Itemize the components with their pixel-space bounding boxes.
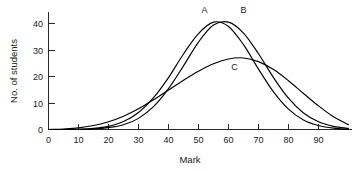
curve-c <box>49 58 349 130</box>
x-tick-label-60: 60 <box>223 135 233 145</box>
x-tick-label-70: 70 <box>253 135 263 145</box>
distribution-chart: 40 30 20 10 0 0 10 20 30 40 50 60 70 80 … <box>0 0 362 171</box>
y-axis-ticks <box>49 24 55 104</box>
curve-b <box>49 22 349 130</box>
x-tick-label-80: 80 <box>283 135 293 145</box>
curve-label-a: A <box>201 5 207 15</box>
x-tick-label-90: 90 <box>313 135 323 145</box>
x-tick-label-40: 40 <box>163 135 173 145</box>
y-tick-label-30: 30 <box>33 46 43 56</box>
curve-label-b: B <box>240 5 246 15</box>
y-axis-title: No. of students <box>8 39 19 103</box>
chart-container: 40 30 20 10 0 0 10 20 30 40 50 60 70 80 … <box>0 0 362 171</box>
curve-label-c: C <box>231 62 238 72</box>
y-tick-label-40: 40 <box>33 19 43 29</box>
x-tick-label-50: 50 <box>193 135 203 145</box>
x-tick-label-0: 0 <box>46 135 51 145</box>
x-axis-title: Mark <box>179 154 200 165</box>
x-tick-label-10: 10 <box>73 135 83 145</box>
y-tick-label-10: 10 <box>33 99 43 109</box>
y-tick-label-0: 0 <box>38 125 43 135</box>
x-tick-label-20: 20 <box>103 135 113 145</box>
x-tick-label-30: 30 <box>133 135 143 145</box>
y-tick-label-20: 20 <box>33 72 43 82</box>
